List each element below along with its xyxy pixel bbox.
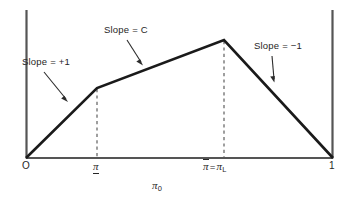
slope-c-arrow-line <box>127 40 141 62</box>
pi-overbar-glyph: π <box>203 161 209 172</box>
slope-minus-one-arrowhead <box>270 76 275 83</box>
pi-underbar-glyph: π <box>93 161 99 172</box>
x-axis-pi-subscript: 0 <box>158 184 162 193</box>
slope-plus-one-arrow-line <box>44 72 66 99</box>
pi-L-subscript: L <box>222 165 226 174</box>
x-axis-title: π0 <box>152 180 162 191</box>
plot-svg <box>0 0 354 202</box>
slope-minus-one-label: Slope = −1 <box>254 41 302 51</box>
slope-c-label: Slope = C <box>104 25 148 35</box>
slope-plus-one-label: Slope = +1 <box>22 57 70 67</box>
slope-c-arrowhead <box>136 59 143 65</box>
figure-container: Slope = +1 Slope = C Slope = −1 O π π=πL… <box>0 0 354 202</box>
x-axis-pi-glyph: π <box>152 179 158 191</box>
tick-label-pi-upper: π=πL <box>203 161 227 172</box>
annotation-arrows <box>44 40 275 102</box>
payoff-curve <box>26 40 333 158</box>
tick-label-origin: O <box>22 161 30 171</box>
tick-label-pi-lower: π <box>93 161 99 172</box>
slope-plus-one-arrowhead <box>61 96 68 102</box>
slope-minus-one-arrow-line <box>272 56 274 79</box>
tick-label-one: 1 <box>329 161 335 171</box>
